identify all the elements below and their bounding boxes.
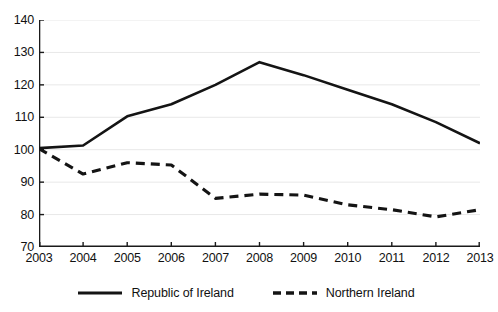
- data-series-group: [39, 62, 480, 217]
- y-tick-label: 80: [4, 209, 34, 222]
- x-tick-label: 2003: [17, 251, 61, 265]
- x-tick-label: 2012: [414, 251, 458, 265]
- y-tick-label: 140: [4, 14, 34, 27]
- x-tick-label: 2006: [149, 251, 193, 265]
- plot-area: [39, 20, 480, 247]
- y-tick-label: 130: [4, 46, 34, 59]
- series-line-northern-ireland: [39, 149, 480, 217]
- x-tick-label: 2010: [326, 251, 370, 265]
- chart-legend: Republic of IrelandNorthern Ireland: [0, 282, 492, 304]
- x-tick-label: 2009: [282, 251, 326, 265]
- y-tick-label: 90: [4, 176, 34, 189]
- legend-entry[interactable]: Republic of Ireland: [77, 286, 233, 300]
- x-tick-label: 2005: [105, 251, 149, 265]
- legend-entry[interactable]: Northern Ireland: [272, 286, 415, 300]
- x-tick-label: 2007: [193, 251, 237, 265]
- y-tick-label: 110: [4, 111, 34, 124]
- y-axis-labels: 708090100110120130140: [0, 0, 34, 312]
- plot-svg: [39, 20, 480, 247]
- solid-line-icon: [77, 288, 123, 298]
- legend-label: Northern Ireland: [326, 286, 415, 300]
- x-axis-labels: 2003200420052006200720082009201020112012…: [39, 251, 480, 271]
- series-line-republic-of-ireland: [39, 62, 480, 148]
- y-tick-label: 120: [4, 79, 34, 92]
- x-tick-label: 2011: [370, 251, 414, 265]
- legend-label: Republic of Ireland: [131, 286, 233, 300]
- x-tick-label: 2004: [61, 251, 105, 265]
- dashed-line-icon: [272, 288, 318, 298]
- gridlines: [39, 20, 480, 215]
- x-tick-label: 2008: [238, 251, 282, 265]
- y-tick-label: 100: [4, 144, 34, 157]
- x-tick-label: 2013: [458, 251, 498, 265]
